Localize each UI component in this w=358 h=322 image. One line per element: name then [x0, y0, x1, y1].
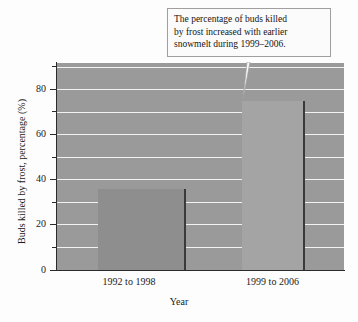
- y-tick-label-60: 60: [36, 129, 46, 139]
- x-tick-label-1992-to-1998: 1992 to 1998: [57, 276, 201, 287]
- bar-1999-to-2006: [242, 101, 305, 270]
- y-tick-40: [50, 179, 57, 180]
- gridline-80: [57, 89, 344, 90]
- callout-line-1: The percentage of buds killed: [174, 13, 324, 26]
- y-tick-label-20: 20: [36, 219, 46, 229]
- callout-annotation: The percentage of buds killed by frost i…: [167, 8, 331, 57]
- y-tick-80: [50, 89, 57, 90]
- y-tick-minor-30: [52, 202, 57, 203]
- y-tick-minor-70: [52, 111, 57, 112]
- y-tick-label-40: 40: [36, 174, 46, 184]
- bar-chart-figure: 0 20 40 60 80 Buds killed by frost, perc…: [0, 0, 358, 322]
- callout-line-2: by frost increased with earlier: [174, 26, 324, 39]
- y-tick-label-80: 80: [36, 84, 46, 94]
- plot-area: [57, 63, 344, 270]
- y-tick-60: [50, 134, 57, 135]
- y-tick-0: [50, 270, 57, 271]
- gridline-90: [57, 67, 344, 68]
- bar-1992-to-1998: [98, 189, 186, 270]
- y-tick-minor-90: [52, 66, 57, 67]
- callout-line-3: snowmelt during 1999–2006.: [174, 38, 324, 51]
- y-tick-minor-50: [52, 157, 57, 158]
- callout-pointer-icon: [237, 62, 251, 99]
- x-axis-title: Year: [0, 296, 358, 307]
- y-axis-line: [56, 62, 57, 271]
- x-tick-label-1999-to-2006: 1999 to 2006: [201, 276, 344, 287]
- y-axis-title: Buds killed by frost, percentage (%): [16, 72, 27, 272]
- y-tick-minor-10: [52, 247, 57, 248]
- y-tick-20: [50, 224, 57, 225]
- y-tick-label-0: 0: [41, 265, 46, 275]
- x-axis-line: [56, 270, 345, 271]
